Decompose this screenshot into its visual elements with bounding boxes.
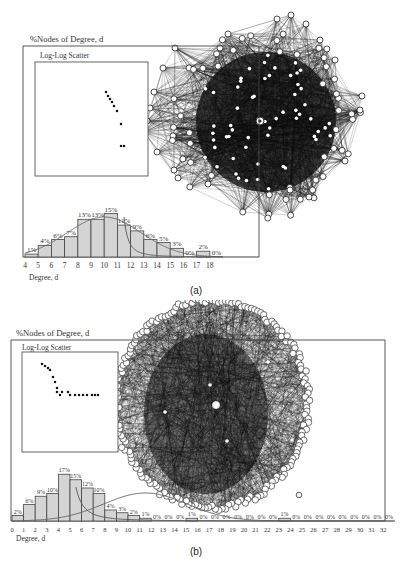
x-tick-label: 15 [183,526,190,533]
panel-a: 1%44%56%67%713%813%915%1011%119%126%135%… [0,0,401,300]
x-tick-label: 4 [23,261,27,270]
x-tick-label: 27 [322,526,329,533]
bar-value-label: 0% [176,514,184,520]
bar-value-label: 9% [37,489,45,495]
bar-value-label: 0% [269,514,277,520]
x-tick-label: 13 [160,526,167,533]
bar-value-label: 13% [78,211,91,219]
x-tick-label: 5 [36,261,40,270]
x-tick-label: 11 [136,526,142,533]
x-axis-title-b: Degree, d [16,534,45,543]
caption-a: (a) [190,285,202,296]
bar-value-label: 0% [327,514,335,520]
y-axis-title-b: %Nodes of Degree, d [16,328,90,338]
x-tick-label: 14 [153,261,161,270]
inset-box [22,352,118,452]
histogram-bar [105,510,117,521]
histogram-bar [51,240,64,257]
x-tick-label: 12 [148,526,155,533]
bar-value-label: 15% [70,473,81,479]
bar-value-label: 1% [188,511,196,517]
x-tick-label: 25 [299,526,306,533]
x-tick-label: 30 [357,526,364,533]
x-tick-label: 16 [194,526,201,533]
bar-value-label: 0% [165,514,173,520]
x-tick-label: 19 [229,526,236,533]
bar-value-label: 2% [130,509,138,515]
x-tick-label: 17 [206,526,213,533]
histogram-bar [104,214,117,258]
x-tick-label: 13 [140,261,148,270]
x-tick-label: 6 [50,261,54,270]
bar-value-label: 0% [385,514,393,520]
bar-value-label: 3% [118,506,126,512]
histogram-bar [38,245,51,257]
x-tick-label: 12 [127,261,135,270]
bar-value-label: 0% [350,514,358,520]
x-tick-label: 11 [114,261,121,270]
inset-title-b: Log-Log Scatter [22,343,72,352]
x-tick-label: 24 [287,526,294,533]
bar-value-label: 13% [91,211,104,219]
chart-a-canvas: 1%44%56%67%713%813%915%1011%119%126%135%… [0,0,401,300]
bar-value-label: 17% [59,467,70,473]
histogram-bar [91,219,104,257]
y-axis-title-a: %Nodes of Degree, d [30,34,104,44]
x-tick-label: 10 [100,261,108,270]
x-tick-label: 9 [115,526,118,533]
x-tick-label: 17 [193,261,201,270]
bar-value-label: 10% [94,487,105,493]
x-tick-label: 6 [80,526,84,533]
caption-b: (b) [190,546,202,557]
network-graph-a [141,12,365,221]
bar-value-label: 0% [212,249,222,257]
chart-b-canvas: 2%06%19%210%317%415%512%610%74%83%92%101… [0,300,401,563]
bar-value-label: 1% [281,511,289,517]
x-tick-label: 7 [63,261,67,270]
inset-box [35,62,148,176]
bar-value-label: 2% [14,509,22,515]
x-tick-label: 20 [241,526,248,533]
bar-value-label: 0% [339,514,347,520]
bar-value-label: 0% [199,514,207,520]
inset-title-a: Log-Log Scatter [40,51,90,60]
x-tick-label: 32 [380,526,387,533]
bar-value-label: 5% [159,235,169,243]
bar-value-label: 12% [82,481,93,487]
x-tick-label: 18 [218,526,225,533]
x-tick-label: 4 [57,526,61,533]
x-tick-label: 28 [334,526,341,533]
x-tick-label: 9 [89,261,93,270]
bar-value-label: 0% [315,514,323,520]
x-tick-label: 26 [310,526,317,533]
x-tick-label: 0 [10,526,13,533]
x-tick-label: 5 [68,526,71,533]
bar-value-label: 4% [107,503,115,509]
bar-value-label: 1% [141,511,149,517]
bar-value-label: 10% [47,487,58,493]
x-tick-label: 10 [125,526,132,533]
histogram-bar [35,496,47,521]
panel-b: 2%06%19%210%317%415%512%610%74%83%92%101… [0,300,401,563]
x-tick-label: 1 [22,526,25,533]
histogram-bar [24,505,36,522]
x-axis-title-a: Degree, d [29,273,58,282]
loglog-inset-a [35,62,148,176]
x-tick-label: 2 [34,526,37,533]
bar-value-label: 0% [153,514,161,520]
bar-value-label: 0% [246,514,254,520]
loglog-inset-b [22,352,118,452]
network-graph-b [111,300,313,513]
histogram-bar [25,254,38,257]
x-tick-label: 16 [180,261,188,270]
x-tick-label: 14 [171,526,178,533]
x-tick-label: 15 [166,261,174,270]
x-tick-label: 8 [76,261,80,270]
histogram-bar [157,243,170,258]
bar-value-label: 0% [304,514,312,520]
bar-value-label: 0% [292,514,300,520]
bar-value-label: 15% [104,206,117,214]
bar-value-label: 0% [373,514,381,520]
bar-value-label: 0% [257,514,265,520]
histogram-bar [58,474,70,521]
